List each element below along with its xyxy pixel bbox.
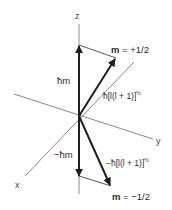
lower-magnitude-label: −ħ[l(l + 1)]½ bbox=[106, 158, 149, 168]
upper-projection-label: ħm bbox=[57, 76, 70, 86]
y-axis-label: y bbox=[156, 137, 161, 146]
lower-m-label: m = −1/2 bbox=[112, 192, 150, 202]
z-axis-label: z bbox=[75, 12, 80, 21]
upper-magnitude-label: ħ[l(l + 1)]½ bbox=[103, 91, 141, 101]
magnitude-text: −ħ[l(l + 1)] bbox=[106, 158, 144, 168]
lower-magnitude-arrow bbox=[79, 116, 110, 185]
m-value: = −1/2 bbox=[120, 191, 150, 202]
magnitude-text: ħ[l(l + 1)] bbox=[103, 91, 136, 101]
upper-m-label: m = +1/2 bbox=[111, 45, 149, 55]
magnitude-exponent: ½ bbox=[136, 90, 141, 96]
lower-projection-label: −ħm bbox=[54, 150, 73, 160]
x-axis-label: x bbox=[15, 181, 20, 190]
m-value: = +1/2 bbox=[119, 44, 149, 55]
magnitude-exponent: ½ bbox=[144, 157, 149, 163]
angular-momentum-vector-diagram bbox=[0, 0, 172, 210]
